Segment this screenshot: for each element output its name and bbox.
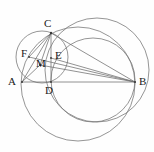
segment-EB [51, 58, 135, 82]
point-label-D: D [45, 85, 53, 96]
point-dot-D [50, 81, 52, 83]
point-dot-C [50, 32, 52, 34]
point-dot-E [50, 57, 52, 59]
point-label-E: E [55, 50, 62, 61]
geometry-figure: C F E M A D B [0, 0, 154, 152]
point-dot-B [134, 81, 136, 83]
point-label-F: F [21, 48, 27, 59]
circles-group [16, 18, 149, 141]
point-label-C: C [44, 18, 51, 29]
geometry-canvas [0, 0, 154, 152]
circle-through-A-and-B [21, 27, 135, 141]
point-label-M: M [36, 58, 46, 69]
point-dot-F [28, 56, 30, 58]
point-label-A: A [8, 76, 16, 87]
point-label-B: B [139, 76, 146, 87]
point-dot-A [21, 81, 23, 83]
